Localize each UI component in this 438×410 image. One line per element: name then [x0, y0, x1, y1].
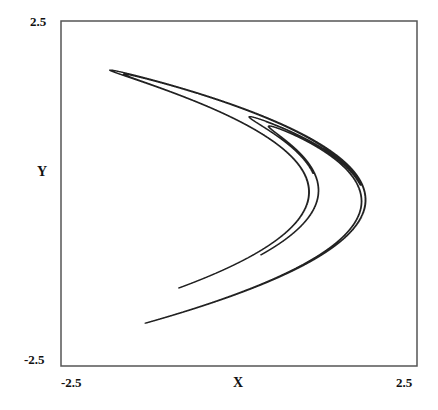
y-axis-title: Y	[37, 164, 47, 180]
attractor-points	[110, 70, 366, 323]
plot-area	[0, 0, 438, 410]
attractor-curve	[110, 70, 366, 323]
x-axis-title: X	[233, 375, 243, 391]
y-max-tick-label: 2.5	[30, 14, 46, 30]
x-max-tick-label: 2.5	[396, 375, 412, 391]
x-min-tick-label: -2.5	[61, 375, 82, 391]
y-min-tick-label: -2.5	[24, 352, 45, 368]
